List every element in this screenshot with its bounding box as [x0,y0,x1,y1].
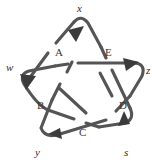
star-path-graphic [0,0,162,166]
segment-w-to-x-a [31,53,48,76]
vertex-label-y: y [35,147,40,158]
region-label-c: C [79,127,86,138]
vertex-label-w: w [6,62,13,73]
segment-s-to-w-b [48,110,74,119]
segment-inner-right-upper [100,73,112,96]
segment-inner-left-lower [59,88,86,113]
vertex-label-s: s [124,147,128,158]
region-label-a: A [55,47,63,58]
arrow-y-icon [48,128,62,139]
segment-apex-z [130,63,143,96]
vertex-label-z: z [146,65,150,76]
pentagram-figure: x w z y s A E B D C [0,0,162,166]
arrow-s-icon [118,111,130,126]
segment-y-to-top-a [52,84,60,100]
region-label-b: B [37,100,44,111]
vertex-label-x: x [77,3,82,14]
region-label-d: D [119,100,127,111]
region-label-e: E [105,47,112,58]
segment-w-to-z-a [55,64,68,66]
